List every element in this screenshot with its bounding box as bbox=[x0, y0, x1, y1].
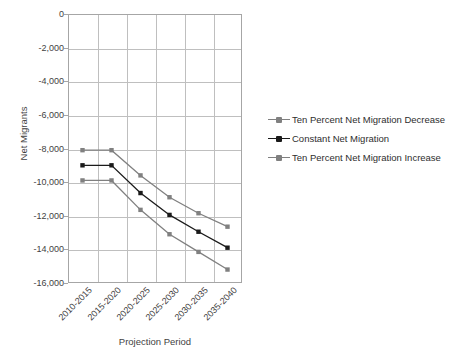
y-axis-tick-label: -4,000 bbox=[8, 76, 64, 86]
legend-item-label: Constant Net Migration bbox=[292, 133, 389, 144]
legend-item[interactable]: Constant Net Migration bbox=[268, 129, 464, 148]
series-data-point bbox=[109, 148, 113, 152]
legend-item[interactable]: Ten Percent Net Migration Decrease bbox=[268, 110, 464, 129]
legend-item-label: Ten Percent Net Migration Increase bbox=[292, 152, 441, 163]
series-data-point bbox=[196, 250, 200, 254]
y-axis-tick-label: -14,000 bbox=[8, 244, 64, 254]
x-axis-tick-labels: 2010-20152015-20202020-20252025-20302030… bbox=[0, 285, 300, 333]
series-data-point bbox=[196, 230, 200, 234]
legend-marker-icon bbox=[268, 115, 290, 125]
data-series-layer bbox=[68, 14, 242, 283]
y-axis-tick-labels: 0-2,000-4,000-6,000-8,000-10,000-12,000-… bbox=[4, 14, 64, 283]
y-axis-tick-label: -6,000 bbox=[8, 110, 64, 120]
series-data-point bbox=[109, 163, 113, 167]
series-line bbox=[83, 165, 228, 247]
legend-marker-icon bbox=[268, 153, 290, 163]
y-axis-tick-label: -12,000 bbox=[8, 211, 64, 221]
chart-legend: Ten Percent Net Migration DecreaseConsta… bbox=[268, 110, 464, 167]
y-axis-tick-label: -10,000 bbox=[8, 177, 64, 187]
series-data-point bbox=[167, 195, 171, 199]
y-axis-tick-label: 0 bbox=[8, 9, 64, 19]
series-data-point bbox=[196, 211, 200, 215]
series-data-point bbox=[225, 245, 229, 249]
series-data-point bbox=[138, 191, 142, 195]
legend-marker-icon bbox=[268, 134, 290, 144]
series-data-point bbox=[138, 208, 142, 212]
series-line bbox=[83, 150, 228, 226]
series-data-point bbox=[109, 178, 113, 182]
series-data-point bbox=[80, 163, 84, 167]
series-data-point bbox=[138, 173, 142, 177]
y-axis-tick-label: -8,000 bbox=[8, 144, 64, 154]
legend-item-label: Ten Percent Net Migration Decrease bbox=[292, 114, 445, 125]
series-data-point bbox=[80, 148, 84, 152]
series-data-point bbox=[80, 178, 84, 182]
legend-item[interactable]: Ten Percent Net Migration Increase bbox=[268, 148, 464, 167]
y-axis-title: Net Migrants bbox=[18, 89, 29, 179]
series-data-point bbox=[167, 232, 171, 236]
x-axis-title: Projection Period bbox=[68, 336, 242, 347]
y-axis-tick-label: -2,000 bbox=[8, 43, 64, 53]
series-data-point bbox=[167, 213, 171, 217]
series-data-point bbox=[225, 224, 229, 228]
net-migration-line-chart: 0-2,000-4,000-6,000-8,000-10,000-12,000-… bbox=[0, 0, 464, 358]
y-axis-tick-mark bbox=[64, 283, 68, 284]
